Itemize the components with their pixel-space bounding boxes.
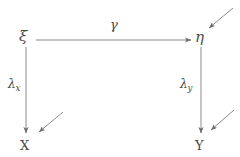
diagram-edges-layer [0, 0, 240, 157]
edge-label-lambda-x-base: λ [8, 77, 16, 91]
node-label-eta: η [195, 30, 204, 45]
path-diagram: ξ η X Y γ λx λy [0, 0, 240, 157]
edge-label-lambda-y-base: λ [180, 77, 188, 91]
error-arrow-x [39, 112, 63, 132]
edge-label-gamma: γ [110, 18, 118, 31]
error-arrow-y [211, 110, 234, 130]
node-label-xi: ξ [19, 29, 27, 44]
edge-label-lambda-y-subscript: y [188, 83, 193, 93]
edge-label-lambda-x: λx [8, 78, 20, 93]
edge-label-lambda-y: λy [180, 78, 192, 93]
node-label-x: X [20, 139, 29, 152]
edge-label-lambda-x-subscript: x [16, 83, 21, 93]
error-arrow-eta [209, 8, 233, 28]
node-label-y: Y [195, 139, 204, 152]
